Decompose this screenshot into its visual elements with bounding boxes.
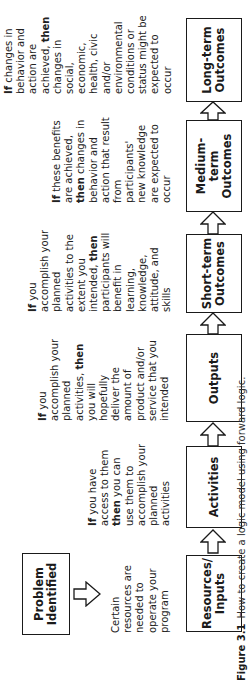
outputs-description: If you accomplish your planned activitie… — [37, 339, 171, 421]
logic-model-diagram: Problem Identified Certain resources are… — [0, 0, 250, 683]
hollow-arrow-right-icon — [200, 211, 226, 235]
hollow-arrow-right-icon — [200, 101, 226, 121]
hollow-arrow-right-icon — [200, 312, 226, 335]
activities-description: If you have access to them then you can … — [87, 444, 172, 526]
hollow-arrow-down-icon — [73, 581, 101, 607]
short-term-outcomes-box: Short-term Outcomes — [186, 234, 242, 313]
medium-term-description: If these benefits are achieved, then cha… — [51, 117, 173, 203]
problem-identified-box: Problem Identified — [22, 553, 70, 635]
activities-box: Activities — [186, 446, 242, 528]
resources-inputs-box: Resources/ Inputs — [186, 555, 242, 632]
hollow-arrow-right-icon — [200, 422, 226, 447]
medium-term-outcomes-box: Medium- term Outcomes — [186, 120, 242, 212]
figure-caption: Figure 3.1How to create a logic model us… — [236, 377, 247, 681]
resources-description: Certain resources are needed to operate … — [110, 565, 171, 633]
short-term-description: If you accomplish your planned activitie… — [27, 230, 173, 312]
hollow-arrow-right-icon — [200, 529, 226, 554]
problem-identified-label: Problem Identified — [33, 563, 59, 626]
figure-caption-text: How to create a logic model using forwar… — [236, 377, 247, 619]
figure-number: Figure 3.1 — [236, 624, 247, 681]
long-term-outcomes-box: Long-term Outcomes — [186, 18, 242, 102]
outputs-box: Outputs — [186, 334, 242, 422]
long-term-description: If changes in behavior and action are ac… — [3, 15, 174, 94]
